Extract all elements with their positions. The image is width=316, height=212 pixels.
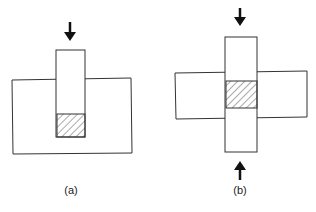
hatched-region-a [57,114,85,137]
arrow-down-icon [64,22,76,41]
panel-a [12,22,132,154]
arrow-down-icon [234,8,246,26]
diagram-canvas [0,0,316,212]
hatched-region-b [226,81,257,108]
panel-b [175,8,307,180]
panel-b-label: (b) [225,184,255,196]
arrow-up-icon [234,161,246,180]
panel-a-label: (a) [56,184,86,196]
